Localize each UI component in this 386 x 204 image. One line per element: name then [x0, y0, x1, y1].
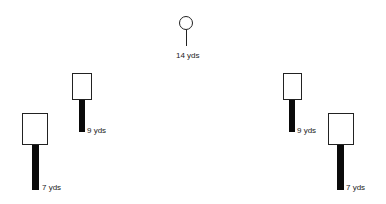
- station-label: 9 yds: [87, 126, 106, 135]
- station-label: 7 yds: [42, 183, 61, 192]
- center-pin-label: 14 yds: [176, 51, 200, 60]
- sign-box: [283, 73, 302, 100]
- station-label: 7 yds: [346, 183, 365, 192]
- sign-post: [289, 100, 295, 132]
- sign-post: [32, 145, 39, 190]
- sign-box: [328, 113, 354, 145]
- sign-box: [72, 73, 92, 100]
- sign-post: [337, 145, 344, 190]
- station-label: 9 yds: [297, 126, 316, 135]
- sign-box: [22, 113, 48, 145]
- pin-stem: [186, 30, 188, 46]
- sign-post: [79, 100, 85, 132]
- pin-circle-icon: [179, 16, 193, 30]
